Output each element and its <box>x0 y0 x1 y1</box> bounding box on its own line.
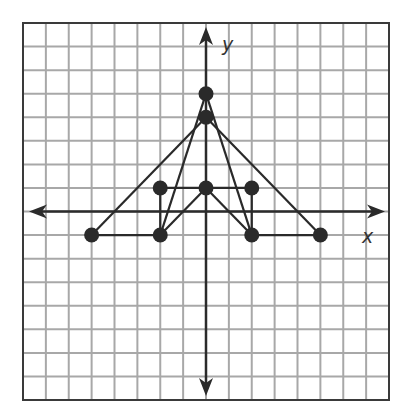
point-D <box>199 180 214 195</box>
point-G <box>153 228 168 243</box>
y-axis-label: y <box>221 33 234 55</box>
segment-BI <box>206 117 320 235</box>
coordinate-grid-diagram: y x <box>0 0 400 413</box>
point-C <box>153 180 168 195</box>
axes <box>29 27 385 396</box>
x-axis-label: x <box>361 225 374 247</box>
point-I <box>313 228 328 243</box>
point-E <box>244 180 259 195</box>
point-A <box>199 86 214 101</box>
segment-BF <box>92 117 206 235</box>
point-B <box>199 110 214 125</box>
point-F <box>84 228 99 243</box>
point-H <box>244 228 259 243</box>
